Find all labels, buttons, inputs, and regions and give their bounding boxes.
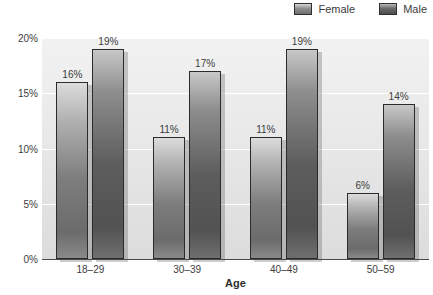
bar-female[interactable]: 11% [250,137,282,259]
bar-value-label: 11% [256,124,275,135]
bar-female[interactable]: 16% [56,82,88,259]
bar-fill [92,49,124,259]
bar-value-label: 11% [159,124,178,135]
legend-label-male: Male [403,3,427,15]
bar-group: 11%19% [236,38,333,259]
bar-female[interactable]: 6% [347,193,379,259]
female-swatch-icon [294,3,312,15]
x-axis-tick-label: 50–59 [367,264,395,275]
bar-group: 6%14% [332,38,429,259]
y-axis-tick-label: 10% [2,143,38,154]
bar-male[interactable]: 17% [189,71,221,259]
bar-fill [286,49,318,259]
bar-fill [153,137,185,259]
y-axis-tick-label: 15% [2,88,38,99]
bar-group: 11%17% [139,38,236,259]
bar-group: 16%19% [42,38,139,259]
bar-value-label: 6% [355,180,369,191]
bar-fill [347,193,379,259]
male-swatch-icon [379,3,397,15]
bar-value-label: 17% [195,58,215,69]
x-axis-tick-label: 18–29 [76,264,104,275]
y-axis-tick-label: 5% [2,198,38,209]
bar-fill [189,71,221,259]
bar-value-label: 16% [62,69,82,80]
bar-fill [56,82,88,259]
bar-fill [250,137,282,259]
bars-layer: 16%19%11%17%11%19%6%14% [42,38,429,259]
legend-label-female: Female [318,3,355,15]
y-axis-tick-label: 0% [2,254,38,265]
bar-fill [383,104,415,259]
bar-male[interactable]: 14% [383,104,415,259]
x-axis-baseline [42,259,429,260]
x-axis-tick-label: 30–39 [173,264,201,275]
y-axis: 0%5%10%15%20% [0,0,38,295]
bar-value-label: 14% [389,91,409,102]
bar-chart: Female Male 0%5%10%15%20% 16%19%11%17%11… [0,0,433,295]
x-axis-title: Age [42,277,429,289]
bar-value-label: 19% [98,36,118,47]
legend-item-male[interactable]: Male [379,3,427,15]
bar-value-label: 19% [292,36,312,47]
bar-female[interactable]: 11% [153,137,185,259]
bar-male[interactable]: 19% [92,49,124,259]
x-axis-tick-label: 40–49 [270,264,298,275]
chart-legend: Female Male [294,3,427,15]
bar-male[interactable]: 19% [286,49,318,259]
y-axis-tick-label: 20% [2,33,38,44]
legend-item-female[interactable]: Female [294,3,355,15]
